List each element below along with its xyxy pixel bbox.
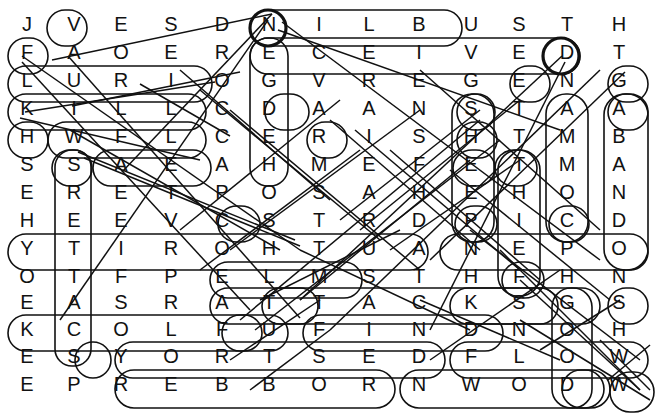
grid-letter[interactable]: P [547, 234, 587, 262]
grid-letter[interactable]: R [299, 122, 339, 150]
grid-letter[interactable]: T [499, 94, 539, 122]
grid-letter[interactable]: T [249, 288, 289, 316]
grid-letter[interactable]: E [349, 150, 389, 178]
grid-letter[interactable]: O [499, 370, 539, 398]
grid-letter[interactable]: S [499, 10, 539, 38]
grid-letter[interactable]: E [451, 150, 491, 178]
grid-letter[interactable]: H [7, 122, 47, 150]
grid-letter[interactable]: N [451, 234, 491, 262]
grid-letter[interactable]: E [54, 206, 94, 234]
grid-letter[interactable]: O [101, 315, 141, 343]
grid-letter[interactable]: L [249, 262, 289, 290]
grid-letter[interactable]: C [299, 38, 339, 66]
grid-letter[interactable]: B [202, 370, 242, 398]
grid-letter[interactable]: R [349, 370, 389, 398]
grid-letter[interactable]: O [101, 38, 141, 66]
grid-letter[interactable]: I [101, 234, 141, 262]
grid-letter[interactable]: E [7, 178, 47, 206]
grid-letter[interactable]: M [299, 150, 339, 178]
grid-letter[interactable]: O [547, 178, 587, 206]
grid-letter[interactable]: D [202, 10, 242, 38]
grid-letter[interactable]: L [499, 342, 539, 370]
grid-letter[interactable]: S [54, 342, 94, 370]
grid-letter[interactable]: R [202, 342, 242, 370]
grid-letter[interactable]: I [499, 206, 539, 234]
grid-letter[interactable]: A [299, 94, 339, 122]
grid-letter[interactable]: E [451, 178, 491, 206]
grid-letter[interactable]: N [547, 66, 587, 94]
grid-letter[interactable]: T [499, 150, 539, 178]
grid-letter[interactable]: S [299, 342, 339, 370]
grid-letter[interactable]: T [54, 262, 94, 290]
grid-letter[interactable]: F [399, 150, 439, 178]
grid-letter[interactable]: N [599, 262, 639, 290]
grid-letter[interactable]: E [349, 342, 389, 370]
grid-letter[interactable]: R [349, 66, 389, 94]
grid-letter[interactable]: L [349, 10, 389, 38]
grid-letter[interactable]: A [599, 150, 639, 178]
grid-letter[interactable]: D [547, 370, 587, 398]
grid-letter[interactable]: R [101, 66, 141, 94]
grid-letter[interactable]: T [299, 234, 339, 262]
grid-letter[interactable]: D [399, 206, 439, 234]
grid-letter[interactable]: I [54, 94, 94, 122]
grid-letter[interactable]: F [7, 38, 47, 66]
grid-letter[interactable]: B [249, 370, 289, 398]
grid-letter[interactable]: G [547, 288, 587, 316]
grid-letter[interactable]: E [202, 262, 242, 290]
grid-letter[interactable]: O [547, 315, 587, 343]
grid-letter[interactable]: S [399, 122, 439, 150]
grid-letter[interactable]: M [299, 262, 339, 290]
grid-letter[interactable]: D [399, 342, 439, 370]
grid-letter[interactable]: L [7, 66, 47, 94]
grid-letter[interactable]: E [499, 234, 539, 262]
grid-letter[interactable]: O [202, 234, 242, 262]
grid-letter[interactable]: T [399, 262, 439, 290]
grid-letter[interactable]: O [547, 342, 587, 370]
grid-letter[interactable]: T [299, 206, 339, 234]
grid-letter[interactable]: E [151, 38, 191, 66]
grid-letter[interactable]: L [101, 94, 141, 122]
grid-letter[interactable]: T [299, 288, 339, 316]
grid-letter[interactable]: O [202, 66, 242, 94]
grid-letter[interactable]: O [249, 178, 289, 206]
grid-letter[interactable]: E [101, 206, 141, 234]
grid-letter[interactable]: A [349, 94, 389, 122]
grid-letter[interactable]: J [7, 10, 47, 38]
grid-letter[interactable]: A [399, 234, 439, 262]
grid-letter[interactable]: Y [101, 342, 141, 370]
grid-letter[interactable]: A [349, 288, 389, 316]
grid-letter[interactable]: W [599, 342, 639, 370]
grid-letter[interactable]: S [299, 178, 339, 206]
grid-letter[interactable]: B [599, 122, 639, 150]
grid-letter[interactable]: E [249, 122, 289, 150]
grid-letter[interactable]: U [349, 234, 389, 262]
grid-letter[interactable]: A [202, 150, 242, 178]
grid-letter[interactable]: A [54, 288, 94, 316]
grid-letter[interactable]: L [151, 94, 191, 122]
grid-letter[interactable]: D [249, 94, 289, 122]
grid-letter[interactable]: H [547, 262, 587, 290]
grid-letter[interactable]: B [399, 10, 439, 38]
grid-letter[interactable]: R [151, 288, 191, 316]
grid-letter[interactable]: M [547, 122, 587, 150]
grid-letter[interactable]: C [54, 315, 94, 343]
grid-letter[interactable]: V [451, 38, 491, 66]
grid-letter[interactable]: T [499, 122, 539, 150]
grid-letter[interactable]: E [399, 66, 439, 94]
grid-letter[interactable]: V [299, 66, 339, 94]
grid-letter[interactable]: A [101, 150, 141, 178]
grid-letter[interactable]: A [599, 94, 639, 122]
grid-letter[interactable]: I [299, 10, 339, 38]
grid-letter[interactable]: D [451, 315, 491, 343]
grid-letter[interactable]: H [599, 315, 639, 343]
grid-letter[interactable]: C [202, 206, 242, 234]
grid-letter[interactable]: E [7, 342, 47, 370]
grid-letter[interactable]: S [599, 288, 639, 316]
grid-letter[interactable]: O [7, 262, 47, 290]
grid-letter[interactable]: S [349, 262, 389, 290]
grid-letter[interactable]: T [249, 342, 289, 370]
grid-letter[interactable]: A [54, 38, 94, 66]
grid-letter[interactable]: A [547, 94, 587, 122]
grid-letter[interactable]: Y [7, 234, 47, 262]
